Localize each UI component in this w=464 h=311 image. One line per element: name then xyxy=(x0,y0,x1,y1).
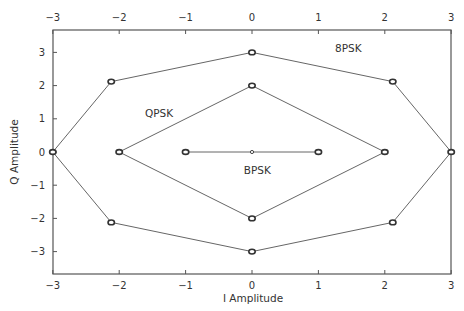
x-tick-label: 3 xyxy=(448,280,454,291)
constellation-point xyxy=(108,79,114,84)
y-tick-label: −1 xyxy=(30,180,45,191)
constellation-point xyxy=(390,79,396,84)
y-tick-label: −2 xyxy=(30,213,45,224)
constellation-point xyxy=(249,249,255,254)
constellation-point xyxy=(182,150,188,155)
constellation-point xyxy=(315,150,321,155)
x-tick-label-top: −1 xyxy=(178,12,193,23)
x-tick-label: −2 xyxy=(112,280,127,291)
constellation-point xyxy=(448,150,454,155)
constellation-point xyxy=(249,216,255,221)
constellation-point xyxy=(108,220,114,225)
constellation-chart: −3−2−10123−3−2−10123−3−2−10123 8PSKQPSKB… xyxy=(0,0,464,311)
constellation-point xyxy=(390,220,396,225)
x-tick-label: −3 xyxy=(45,280,60,291)
constellation-point xyxy=(249,50,255,55)
x-tick-label: 0 xyxy=(249,280,255,291)
x-tick-label-top: 1 xyxy=(315,12,321,23)
series-label-bpsk: BPSK xyxy=(244,164,272,176)
constellation-point xyxy=(382,150,388,155)
y-axis-title: Q Amplitude xyxy=(8,119,20,184)
series-labels: 8PSKQPSKBPSK xyxy=(145,42,363,175)
x-tick-label: 2 xyxy=(382,280,388,291)
y-tick-label: 2 xyxy=(39,80,45,91)
x-tick-label: 1 xyxy=(315,280,321,291)
x-tick-label-top: 0 xyxy=(249,12,255,23)
constellation-point xyxy=(50,150,56,155)
x-tick-label-top: 3 xyxy=(448,12,454,23)
y-tick-label: 3 xyxy=(39,47,45,58)
series-markers xyxy=(50,50,455,254)
series-label-qpsk: QPSK xyxy=(145,107,174,119)
x-tick-label-top: −3 xyxy=(45,12,60,23)
x-tick-label-top: −2 xyxy=(112,12,127,23)
y-tick-label: −3 xyxy=(30,246,45,257)
y-tick-label: 0 xyxy=(39,147,45,158)
series-label-8psk: 8PSK xyxy=(335,42,363,54)
constellation-point xyxy=(116,150,122,155)
x-tick-label-top: 2 xyxy=(382,12,388,23)
origin-point xyxy=(250,150,253,153)
y-tick-label: 1 xyxy=(39,113,45,124)
x-axis-title: I Amplitude xyxy=(223,292,283,304)
x-tick-label: −1 xyxy=(178,280,193,291)
constellation-point xyxy=(249,83,255,88)
